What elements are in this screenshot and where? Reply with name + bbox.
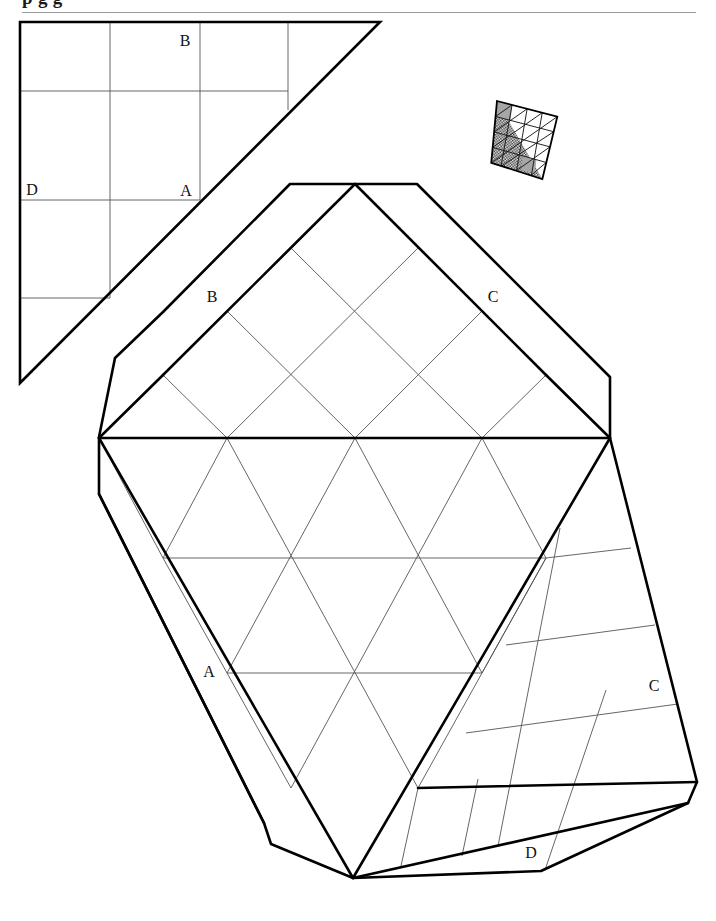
- figure-square-grid-triangle: B A D: [20, 22, 380, 383]
- label-grid-D: D: [26, 181, 38, 198]
- main-bold-outline: [99, 184, 697, 878]
- figure-shaded-patch: [479, 95, 572, 196]
- main-diamond-lattice-thin: [163, 184, 546, 438]
- square-grid-thin-lines: [20, 22, 288, 298]
- main-triangular-lattice-thin: [99, 438, 546, 788]
- label-main-D: D: [525, 844, 537, 861]
- label-main-A: A: [203, 663, 215, 680]
- diagram-canvas: B A D: [0, 0, 716, 921]
- label-main-C-right: C: [649, 677, 660, 694]
- label-grid-A: A: [180, 182, 192, 199]
- figure-main-crease-pattern: B C A C D: [99, 184, 697, 878]
- label-grid-B: B: [180, 32, 191, 49]
- page-root: p g g B A D: [0, 0, 716, 921]
- label-main-B: B: [207, 288, 218, 305]
- label-main-C-top: C: [488, 288, 499, 305]
